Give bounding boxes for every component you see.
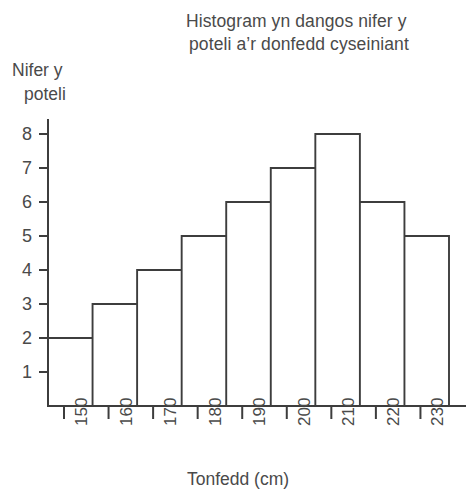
y-tick-label: 8 bbox=[6, 125, 32, 143]
y-tick-label: 3 bbox=[6, 295, 32, 313]
histogram-figure: Histogram yn dangos nifer y poteli a’r d… bbox=[0, 0, 476, 500]
y-tick-label: 4 bbox=[6, 261, 32, 279]
x-tick-label: 230 bbox=[429, 398, 446, 426]
x-tick-label: 170 bbox=[162, 398, 179, 426]
x-tick-label: 160 bbox=[118, 398, 135, 426]
axis-group bbox=[48, 120, 465, 406]
axis-spines bbox=[48, 120, 465, 406]
x-tick-label: 150 bbox=[73, 398, 90, 426]
histogram-bars bbox=[48, 134, 449, 406]
y-axis-ticks bbox=[39, 134, 48, 372]
y-tick-label: 6 bbox=[6, 193, 32, 211]
bar-outline-path bbox=[48, 134, 449, 406]
x-tick-label: 220 bbox=[385, 398, 402, 426]
x-tick-label: 190 bbox=[251, 398, 268, 426]
y-tick-label: 1 bbox=[6, 363, 32, 381]
y-tick-label: 7 bbox=[6, 159, 32, 177]
x-tick-label: 180 bbox=[207, 398, 224, 426]
x-tick-label: 200 bbox=[296, 398, 313, 426]
x-axis-caption: Tonfedd (cm) bbox=[0, 469, 476, 490]
y-tick-label: 5 bbox=[6, 227, 32, 245]
x-tick-label: 210 bbox=[340, 398, 357, 426]
y-tick-label: 2 bbox=[6, 329, 32, 347]
